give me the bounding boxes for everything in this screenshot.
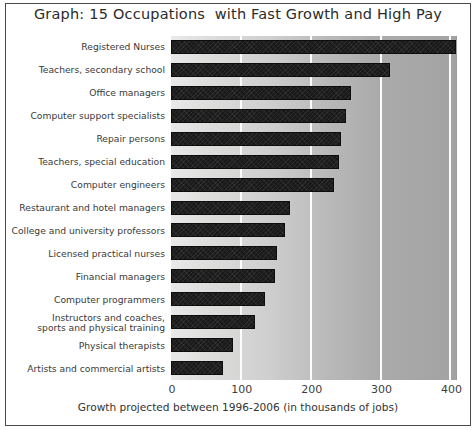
y-axis-label: Teachers, secondary school [0, 65, 165, 75]
y-axis-label: Artists and commercial artists [0, 364, 165, 374]
bar-row [171, 242, 456, 265]
x-tick-label-100: 100 [212, 383, 272, 396]
y-axis-label: Office managers [0, 88, 165, 98]
bar-row [171, 288, 456, 311]
bar [171, 338, 233, 352]
y-axis-category-labels: Registered NursesTeachers, secondary sch… [0, 36, 165, 380]
bar [171, 63, 390, 77]
bar-row [171, 128, 456, 151]
bar [171, 155, 339, 169]
y-axis-label-line: sports and physical training [0, 323, 165, 333]
bar [171, 132, 341, 146]
y-axis-label-line: College and university professors [0, 226, 165, 236]
y-axis-label-line: Artists and commercial artists [0, 364, 165, 374]
bar [171, 86, 351, 100]
x-axis-caption: Growth projected between 1996-2006 (in t… [0, 401, 476, 413]
x-tick-label-300: 300 [352, 383, 412, 396]
y-axis-label: Computer support specialists [0, 111, 165, 121]
y-axis-label: Computer programmers [0, 295, 165, 305]
bar-row [171, 105, 456, 128]
y-axis-label: Repair persons [0, 134, 165, 144]
y-axis-label-line: Repair persons [0, 134, 165, 144]
bar-row [171, 265, 456, 288]
bar [171, 269, 275, 283]
y-axis-label: Financial managers [0, 272, 165, 282]
y-axis-label-line: Physical therapists [0, 341, 165, 351]
bar [171, 223, 285, 237]
y-axis-label-line: Teachers, secondary school [0, 65, 165, 75]
bar-series [171, 36, 456, 380]
y-axis-label-line: Licensed practical nurses [0, 249, 165, 259]
bar-row [171, 82, 456, 105]
bar-row [171, 151, 456, 174]
x-axis-tick-labels: 0100200300400 [0, 383, 476, 399]
bar [171, 178, 334, 192]
bar [171, 292, 265, 306]
x-tick-label-200: 200 [282, 383, 342, 396]
bar [171, 315, 255, 329]
y-axis-label: Registered Nurses [0, 42, 165, 52]
bar-row [171, 197, 456, 220]
y-axis-label-line: Computer engineers [0, 180, 165, 190]
y-axis-label-line: Computer support specialists [0, 111, 165, 121]
bar-row [171, 334, 456, 357]
y-axis-label-line: Restaurant and hotel managers [0, 203, 165, 213]
bar-row [171, 311, 456, 334]
y-axis-label: Restaurant and hotel managers [0, 203, 165, 213]
y-axis-label: Instructors and coaches,sports and physi… [0, 313, 165, 333]
bar-row [171, 59, 456, 82]
bar-row [171, 219, 456, 242]
x-tick-label-0: 0 [142, 383, 202, 396]
bar-row [171, 36, 456, 59]
y-axis-label: College and university professors [0, 226, 165, 236]
chart-figure: Graph: 15 Occupations with Fast Growth a… [0, 0, 476, 430]
bar [171, 40, 456, 54]
bar-row [171, 357, 456, 380]
y-axis-label-line: Registered Nurses [0, 42, 165, 52]
bar [171, 361, 223, 375]
plot-area [171, 36, 456, 380]
bar-row [171, 174, 456, 197]
bar [171, 109, 346, 123]
chart-title: Graph: 15 Occupations with Fast Growth a… [0, 6, 476, 22]
x-tick-label-400: 400 [421, 383, 476, 396]
y-axis-label-line: Teachers, special education [0, 157, 165, 167]
y-axis-label: Licensed practical nurses [0, 249, 165, 259]
y-axis-label: Teachers, special education [0, 157, 165, 167]
y-axis-label: Computer engineers [0, 180, 165, 190]
y-axis-label-line: Office managers [0, 88, 165, 98]
y-axis-label: Physical therapists [0, 341, 165, 351]
plot-right-edge [456, 36, 457, 380]
y-axis-label-line: Financial managers [0, 272, 165, 282]
bar [171, 246, 277, 260]
bar [171, 201, 290, 215]
y-axis-label-line: Computer programmers [0, 295, 165, 305]
